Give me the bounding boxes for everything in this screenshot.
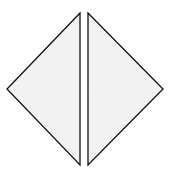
split-diamond-diagram xyxy=(0,0,173,175)
